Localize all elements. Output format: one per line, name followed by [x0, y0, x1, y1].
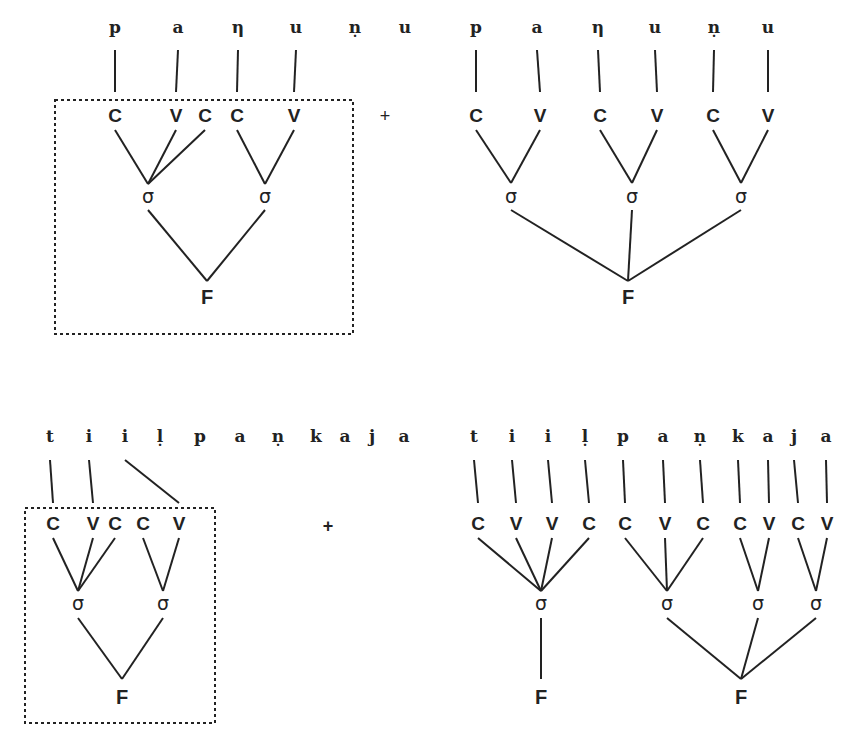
syllable-node: σ [505, 185, 517, 207]
skeleton-to-syllable-edge [478, 538, 541, 591]
vowel-slot: V [170, 105, 183, 126]
segment-left: t [46, 426, 54, 446]
segment-left: j [367, 426, 375, 446]
segment-left: ḷ [157, 426, 164, 446]
segment-left: k [310, 426, 323, 446]
segment-left: u [290, 17, 302, 37]
skeleton-to-syllable-edge [740, 538, 758, 591]
syllable-node: σ [752, 592, 764, 614]
consonant-slot: C [593, 105, 607, 126]
vowel-slot: V [87, 513, 100, 534]
association-line [89, 460, 93, 503]
skeleton-to-syllable-edge [741, 130, 768, 183]
syllable-to-foot-edge [741, 618, 758, 679]
vowel-slot: V [534, 105, 547, 126]
foot-node: F [535, 686, 547, 708]
skeleton-to-syllable-edge [516, 538, 541, 591]
consonant-slot: C [582, 513, 596, 534]
segment-right: i [509, 426, 516, 446]
association-line [794, 460, 798, 503]
consonant-slot: C [791, 513, 805, 534]
association-line [537, 50, 540, 92]
syllable-to-foot-edge [78, 618, 122, 679]
vowel-slot: V [173, 513, 186, 534]
segment-left: a [172, 17, 183, 37]
segment-right: ḷ [582, 426, 589, 446]
consonant-slot: C [618, 513, 632, 534]
labels-layer: paηuṇuCVCCVσσFpaηuṇuCVCVCVσσσF+tiiḷpaṇka… [46, 17, 834, 708]
association-line [738, 460, 740, 503]
skeleton-to-syllable-edge [148, 130, 205, 184]
syllable-node: σ [535, 592, 547, 614]
segment-left: i [122, 426, 129, 446]
association-line [548, 460, 552, 503]
association-line [713, 50, 714, 92]
association-line [512, 460, 516, 503]
segment-left: p [194, 426, 206, 446]
vowel-slot: V [659, 513, 672, 534]
segment-right: ṇ [708, 17, 720, 37]
consonant-slot: C [108, 513, 122, 534]
segment-right: j [789, 426, 797, 446]
segment-right: a [531, 17, 542, 37]
association-line [655, 50, 657, 92]
vowel-slot: V [763, 513, 776, 534]
skeleton-to-syllable-edge [632, 130, 657, 183]
consonant-slot: C [230, 105, 244, 126]
consonant-slot: C [469, 105, 483, 126]
skeleton-to-syllable-edge [78, 538, 93, 591]
consonant-slot: C [471, 513, 485, 534]
plus-sign: + [323, 516, 334, 536]
association-line [826, 460, 827, 503]
association-line [50, 460, 53, 503]
association-line [663, 460, 665, 503]
vowel-slot: V [821, 513, 834, 534]
consonant-slot: C [733, 513, 747, 534]
segment-right: η [592, 17, 604, 37]
segment-left: a [339, 426, 350, 446]
syllable-to-foot-edge [511, 210, 628, 281]
skeleton-to-syllable-edge [713, 130, 741, 183]
vowel-slot: V [762, 105, 775, 126]
syllable-to-foot-edge [667, 618, 741, 679]
segment-right: t [470, 426, 478, 446]
segment-left: ṇ [349, 17, 361, 37]
skeleton-to-syllable-edge [798, 538, 816, 591]
syllable-to-foot-edge [628, 210, 632, 281]
vowel-slot: V [651, 105, 664, 126]
plus-sign: + [380, 106, 391, 126]
consonant-slot: C [108, 105, 122, 126]
association-line [700, 460, 703, 503]
segment-right: p [470, 17, 482, 37]
skeleton-to-syllable-edge [541, 538, 552, 591]
segment-right: u [762, 17, 774, 37]
association-line [768, 460, 769, 503]
segment-right: i [545, 426, 552, 446]
skeleton-to-syllable-edge [237, 130, 265, 184]
skeleton-to-syllable-edge [758, 538, 769, 591]
skeleton-to-syllable-edge [78, 538, 115, 591]
segment-left: i [86, 426, 93, 446]
segment-right: u [649, 17, 661, 37]
syllable-to-foot-edge [122, 618, 163, 679]
skeleton-to-syllable-edge [53, 538, 78, 591]
association-line [474, 460, 478, 503]
foot-node: F [116, 686, 128, 708]
skeleton-to-syllable-edge [163, 538, 179, 591]
skeleton-to-syllable-edge [143, 538, 163, 591]
foot-node: F [622, 286, 634, 308]
segment-left: ṇ [272, 426, 284, 446]
syllable-node: σ [735, 185, 747, 207]
association-line [585, 460, 589, 503]
skeleton-to-syllable-edge [625, 538, 667, 591]
segment-right: p [617, 426, 629, 446]
skeleton-to-syllable-edge [665, 538, 667, 591]
skeleton-to-syllable-edge [511, 130, 540, 183]
foot-node: F [735, 686, 747, 708]
segment-left: p [109, 17, 121, 37]
skeleton-to-syllable-edge [541, 538, 589, 591]
vowel-slot: V [546, 513, 559, 534]
segment-left: a [398, 426, 409, 446]
skeleton-to-syllable-edge [148, 130, 176, 184]
association-line [598, 50, 600, 92]
